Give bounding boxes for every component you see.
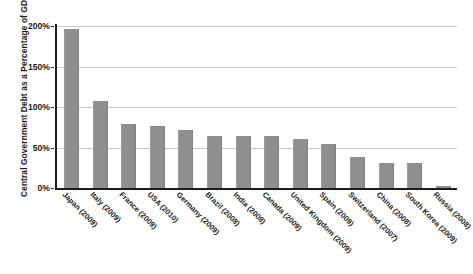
- bar: [293, 139, 308, 188]
- bar: [350, 157, 365, 188]
- bar: [264, 136, 279, 188]
- x-tick-label: South Korea (2009): [403, 190, 458, 245]
- bar: [64, 29, 79, 188]
- y-tick-label: 150%: [28, 62, 50, 72]
- y-tick-mark: [51, 188, 54, 189]
- bar: [436, 186, 451, 188]
- bar: [207, 136, 222, 188]
- y-tick-label: 100%: [28, 102, 50, 112]
- x-tick-label: Switzerland (2007): [346, 190, 399, 243]
- bar: [178, 130, 193, 188]
- y-tick-mark: [51, 107, 54, 108]
- bar: [150, 126, 165, 188]
- bar: [121, 124, 136, 188]
- bar: [236, 136, 251, 188]
- y-tick-label: 200%: [28, 21, 50, 31]
- x-axis-labels: Japan (2009)Italy (2009)France (2009)USA…: [57, 190, 467, 274]
- bar: [321, 144, 336, 188]
- y-tick-mark: [51, 26, 54, 27]
- y-tick-mark: [51, 67, 54, 68]
- bar: [93, 101, 108, 188]
- y-tick-mark: [51, 148, 54, 149]
- y-tick-label: 50%: [33, 143, 50, 153]
- bar-series: [57, 26, 457, 188]
- bar: [379, 163, 394, 188]
- y-tick-label: 0%: [38, 183, 50, 193]
- bar: [407, 163, 422, 188]
- y-axis-ticks: 0%50%100%150%200%: [24, 0, 54, 274]
